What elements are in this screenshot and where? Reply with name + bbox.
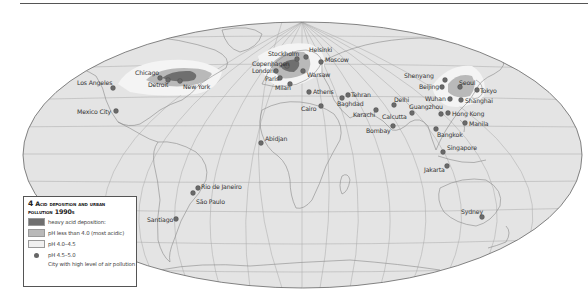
legend-city-dot-icon [28, 251, 45, 259]
city-label: Stockholm [268, 50, 299, 57]
city-label: Hong Kong [452, 110, 485, 118]
legend-item-heavy: heavy acid deposition: [28, 217, 132, 227]
city-label: Manila [469, 120, 489, 127]
city-label: Bangkok [437, 131, 463, 139]
legend-swatch-moderate [28, 240, 45, 248]
legend-label: pH 4.0–4.5 [48, 241, 76, 247]
city-dot-icon [196, 186, 201, 191]
legend-label: heavy acid deposition: [48, 219, 106, 225]
city-label: Singapore [447, 144, 477, 152]
city-dot-icon [158, 76, 163, 81]
legend-note: City with high level of air pollution [48, 261, 132, 267]
city-dot-icon [295, 57, 300, 62]
city-label: Guangzhou [409, 103, 443, 111]
city-dot-icon [304, 55, 309, 60]
city-dot-icon [114, 109, 119, 114]
city-label: Shenyang [404, 72, 434, 80]
city-label: Rio de Janeiro [201, 183, 242, 191]
city-dot-icon [307, 90, 312, 95]
legend-item-most-acidic: pH less than 4.0 (most acidic) [28, 228, 132, 238]
city-label: London [252, 67, 274, 74]
city-dot-icon [446, 111, 451, 116]
legend-swatch-heavy [28, 218, 45, 226]
city-label: Tehran [350, 91, 371, 98]
city-dot-icon [440, 85, 445, 90]
city-dot-icon [463, 121, 468, 126]
city-label: Sydney [461, 208, 483, 216]
city-label: Moscow [325, 56, 349, 63]
city-label: Athens [313, 88, 334, 95]
city-label: Milan [275, 84, 291, 91]
city-dot-icon [391, 124, 396, 129]
city-dot-icon [448, 97, 453, 102]
legend-label: pH less than 4.0 (most acidic) [48, 230, 124, 236]
city-dot-icon [301, 69, 306, 74]
legend-title-line1: Acid deposition and urban [35, 200, 105, 207]
city-label: Calcutta [382, 113, 407, 120]
city-label: Cairo [301, 105, 317, 112]
city-label: Paris [265, 75, 279, 82]
city-dot-icon [459, 98, 464, 103]
city-label: Warsaw [307, 71, 330, 78]
city-label: Karachi [353, 111, 375, 118]
city-dot-icon [443, 78, 448, 83]
city-label: Shanghai [465, 97, 493, 105]
city-label: Wuhan [425, 95, 446, 102]
city-label: Abidjan [265, 135, 287, 143]
city-label: Bombay [366, 127, 391, 135]
city-label: Beijing [419, 83, 439, 91]
city-dot-icon [191, 191, 196, 196]
city-label: Santiago [147, 216, 173, 224]
legend-item-moderate: pH 4.0–4.5 [28, 239, 132, 249]
city-dot-icon [480, 215, 485, 220]
city-rio-de-janeiro: Rio de Janeiro [196, 183, 242, 191]
legend-title: 4Acid deposition and urban pollution 199… [28, 200, 132, 216]
city-label: São Paulo [196, 198, 225, 205]
city-dot-icon [439, 112, 444, 117]
city-dot-icon [475, 88, 480, 93]
city-dot-icon [319, 104, 324, 109]
legend-title-line2: pollution 1990s [28, 208, 75, 215]
city-dot-icon [174, 217, 179, 222]
legend-item-city: pH 4.5–5.0 [28, 250, 132, 260]
city-dot-icon [392, 103, 397, 108]
legend-number: 4 [28, 199, 33, 208]
city-label: Chicago [135, 69, 159, 77]
city-label: Los Angeles [77, 79, 112, 87]
city-hong-kong: Hong Kong [446, 110, 485, 118]
city-label: Detroit [148, 81, 169, 88]
city-label: Baghdad [337, 100, 364, 108]
city-dot-icon [445, 164, 450, 169]
city-label: Mexico City [77, 108, 112, 116]
city-dot-icon [319, 60, 324, 65]
legend: 4Acid deposition and urban pollution 199… [23, 196, 137, 287]
legend-label: pH 4.5–5.0 [48, 252, 76, 258]
city-label: Tokyo [479, 87, 497, 95]
city-label: Seoul [459, 79, 476, 86]
city-label: Delhi [394, 96, 410, 103]
city-dot-icon [441, 150, 446, 155]
city-dot-icon [111, 86, 116, 91]
city-dot-icon [178, 79, 183, 84]
city-dot-icon [274, 69, 279, 74]
city-dot-icon [410, 111, 415, 116]
city-label: Jakarta [423, 166, 445, 174]
city-dot-icon [259, 141, 264, 146]
city-dot-icon [346, 93, 351, 98]
legend-swatch-most-acidic [28, 229, 45, 237]
city-label: New York [183, 83, 211, 90]
city-label: Helsinki [309, 46, 333, 53]
